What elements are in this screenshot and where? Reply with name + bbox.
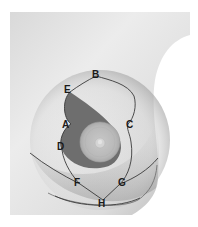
label-h: H xyxy=(98,199,105,209)
label-c: C xyxy=(126,120,133,130)
label-e: E xyxy=(64,85,71,95)
label-a: A xyxy=(62,120,69,130)
label-f: F xyxy=(74,178,80,188)
label-b: B xyxy=(92,70,99,80)
diagram-canvas xyxy=(0,0,198,227)
label-g: G xyxy=(118,178,126,188)
nipple-highlight xyxy=(98,140,102,144)
breast-reduction-diagram: B E A C D F G H xyxy=(0,0,198,227)
label-d: D xyxy=(57,142,64,152)
